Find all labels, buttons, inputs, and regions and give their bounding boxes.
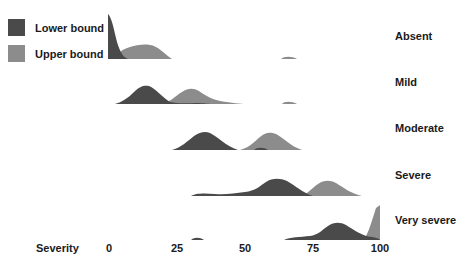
lower-bound-severe [191,179,313,196]
x-tick-50: 50 [239,242,251,254]
upper-bound-very-severe [363,205,380,240]
row-label-absent: Absent [395,30,432,42]
row-label-mild: Mild [395,76,417,88]
x-tick-25: 25 [171,242,183,254]
row-label-moderate: Moderate [395,122,444,134]
legend-item-upper-bound: Upper bound [8,43,104,64]
legend-label: Upper bound [35,48,103,60]
legend-label: Lower bound [35,22,104,34]
row-severe-densities [191,179,362,196]
lower-bound-moderate [172,132,238,150]
upper-bound-mild-blip [282,102,297,104]
legend-swatch-lower-bound [8,19,25,36]
legend-swatch-upper-bound [8,45,25,62]
upper-bound-severe [300,181,362,196]
upper-bound-mild [160,89,246,104]
row-very-severe-densities [191,205,380,240]
x-tick-75: 75 [307,242,319,254]
row-mild-densities [115,86,297,104]
lower-bound-very-severe-blip [191,238,204,240]
row-absent-densities [108,14,297,59]
upper-bound-moderate [240,133,302,150]
x-axis-title: Severity [36,242,79,254]
x-tick-100: 100 [371,242,389,254]
row-label-very-severe: Very severe [395,214,456,226]
upper-bound-absent-blip [281,57,297,59]
legend-item-lower-bound: Lower bound [8,17,104,38]
row-moderate-densities [172,132,302,150]
row-label-severe: Severe [395,169,431,181]
x-tick-0: 0 [106,242,112,254]
lower-bound-very-severe [284,223,380,240]
legend: Lower bound Upper bound [8,17,104,69]
